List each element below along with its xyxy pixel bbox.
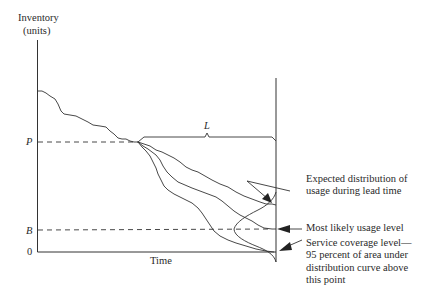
buffer-stock-dashed-line xyxy=(38,229,276,230)
arrowhead-icon xyxy=(262,193,272,203)
annotation-most-likely-text: Most likely usage level xyxy=(306,222,404,234)
annotation-service-coverage-line4: this point xyxy=(306,274,412,286)
usage-path-slow xyxy=(138,142,276,205)
annotation-expected-distribution-line1: Expected distribution of xyxy=(306,173,407,185)
x-axis-label: Time xyxy=(150,255,172,267)
arrowhead-icon xyxy=(279,242,292,251)
tick-label-zero: 0 xyxy=(27,246,32,258)
arrowhead-icon xyxy=(277,225,290,233)
annotation-expected-distribution: Expected distribution of usage during le… xyxy=(306,173,407,198)
y-axis-label-line1: Inventory xyxy=(18,12,59,24)
annotation-service-coverage-line2: 95 percent of area under xyxy=(306,249,412,261)
lead-time-label: L xyxy=(204,120,210,132)
annotation-expected-distribution-line2: usage during lead time xyxy=(306,185,407,197)
tick-label-p: P xyxy=(26,136,32,148)
annotation-service-coverage-line3: distribution curve above xyxy=(306,262,412,274)
annotation-service-coverage: Service coverage level— 95 percent of ar… xyxy=(306,237,412,286)
y-axis-label-line2: (units) xyxy=(23,25,50,37)
tick-label-b: B xyxy=(26,225,32,237)
annotation-service-coverage-line1: Service coverage level— xyxy=(306,237,412,249)
lead-time-brace xyxy=(138,133,276,142)
inventory-usage-curve xyxy=(38,91,138,142)
annotation-most-likely: Most likely usage level xyxy=(306,222,404,234)
